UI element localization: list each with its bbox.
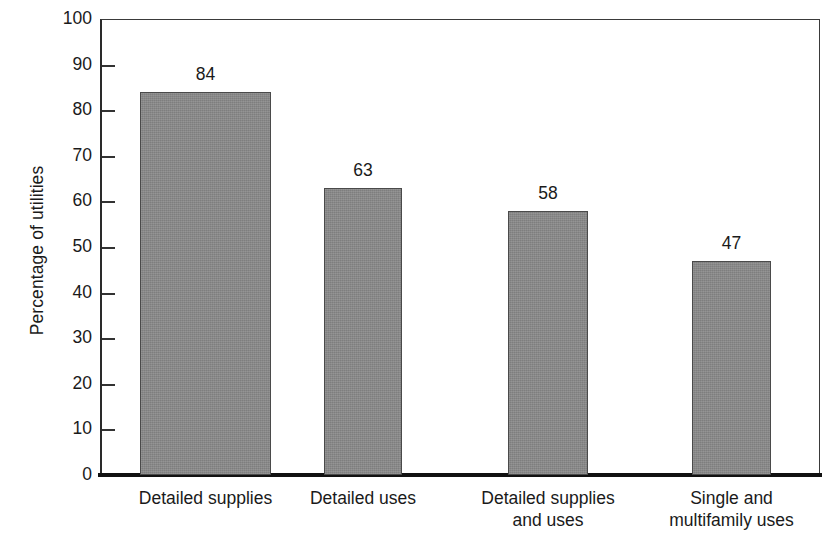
y-tick-label: 100	[40, 10, 92, 28]
y-tick-label: 80	[40, 101, 92, 119]
y-tick-label: 30	[40, 329, 92, 347]
bar-value-label: 63	[324, 162, 402, 180]
y-axis-tick	[102, 293, 115, 295]
bar-value-label: 58	[508, 185, 588, 203]
x-category-label-line: Detailed uses	[258, 487, 468, 509]
y-tick-label: 90	[40, 56, 92, 74]
bar	[140, 92, 271, 475]
y-axis-tick	[102, 429, 115, 431]
y-tick-label: 60	[40, 193, 92, 211]
y-tick-label: 70	[40, 147, 92, 165]
y-axis-tick	[102, 338, 115, 340]
x-category-label: Detailed suppliesand uses	[443, 487, 653, 532]
x-category-label-line: and uses	[443, 509, 653, 531]
y-axis-tick	[102, 247, 115, 249]
bar	[692, 261, 771, 475]
y-tick-label: 50	[40, 238, 92, 256]
y-axis-tick	[102, 201, 115, 203]
y-tick-label: 0	[40, 466, 92, 484]
y-tick-label: 10	[40, 421, 92, 439]
x-category-label: Single andmultifamily uses	[627, 487, 837, 532]
bar	[324, 188, 402, 475]
x-category-label-line: Single and	[627, 487, 837, 509]
y-tick-label: 40	[40, 284, 92, 302]
bar-value-label: 47	[692, 235, 771, 253]
y-axis-tick	[102, 110, 115, 112]
y-tick-label: 20	[40, 375, 92, 393]
bar-chart: Percentage of utilities 1009080706050403…	[0, 0, 838, 557]
x-category-label-line: multifamily uses	[627, 509, 837, 531]
x-category-label-line: Detailed supplies	[443, 487, 653, 509]
bar	[508, 211, 588, 475]
y-axis-tick	[102, 156, 115, 158]
y-axis-tick	[102, 384, 115, 386]
x-category-label: Detailed uses	[258, 487, 468, 509]
y-axis-tick-labels: 1009080706050403020100	[30, 0, 92, 557]
y-axis-tick	[102, 65, 115, 67]
bar-value-label: 84	[140, 66, 271, 84]
